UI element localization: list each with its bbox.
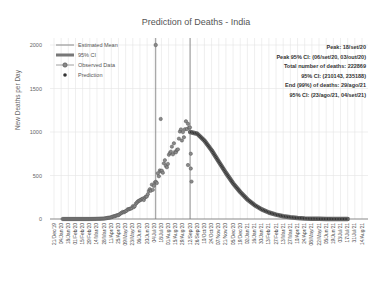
x-tick-label: 04/Jul/20: [152, 223, 157, 243]
x-tick-label: 29/Feb/20: [87, 223, 92, 245]
total-deaths-text: Total number of deaths: 222869: [276, 62, 366, 72]
x-tick-label: 24/Apr/21: [302, 223, 307, 244]
y-tick-label: 1500: [30, 86, 42, 92]
x-tick-label: 24/Oct/20: [209, 223, 214, 244]
x-tick-label: 19/Dec/20: [238, 223, 243, 245]
x-tick-label: 14/Mar/20: [94, 223, 99, 245]
x-tick-label: 14/Aug/21: [360, 223, 365, 245]
x-tick-label: 05/Dec/20: [231, 223, 236, 245]
x-tick-label: 29/Aug/20: [180, 223, 185, 245]
legend-label: Estimated Mean: [78, 42, 118, 48]
legend: Estimated Mean 95% CI Observed Data Pred…: [56, 40, 118, 80]
legend-item-observed: Observed Data: [56, 60, 118, 70]
x-tick-label: 18/Jan/20: [66, 223, 71, 244]
observed-data: [61, 117, 193, 220]
outlier-point: [154, 43, 158, 47]
legend-item-ci: 95% CI: [56, 50, 118, 60]
x-tick-label: 21/Nov/20: [223, 223, 228, 245]
x-tick-label: 30/Jan/21: [259, 223, 264, 244]
x-tick-label: 20/Jun/20: [145, 223, 150, 244]
end-ci-text: 95% CI: (23/ago/21, 04/set/21): [276, 91, 366, 101]
line-icon: [56, 42, 74, 48]
x-tick-label: 27/Feb/21: [274, 223, 279, 245]
legend-label: Observed Data: [78, 62, 115, 68]
x-tick-label: 22/May/21: [317, 223, 322, 246]
x-tick-label: 27/Mar/21: [288, 223, 293, 245]
x-tick-label: 08/May/21: [309, 223, 314, 246]
x-tick-label: 05/Jun/21: [324, 223, 329, 244]
legend-item-mean: Estimated Mean: [56, 40, 118, 50]
x-tick-label: 09/May/20: [123, 223, 128, 246]
x-tick-label: 01/Aug/20: [166, 223, 171, 245]
x-tick-label: 26/Sep/20: [195, 223, 200, 245]
x-tick-label: 03/Jul/21: [338, 223, 343, 243]
peak-ci-text: Peak 95% CI: (06/set/20, 03/out/20): [276, 53, 366, 63]
x-tick-label: 18/Jul/20: [159, 223, 164, 243]
x-tick-label: 10/Oct/20: [202, 223, 207, 244]
y-tick-label: 1000: [30, 129, 42, 135]
x-tick-label: 10/Apr/21: [295, 223, 300, 244]
x-tick-label: 19/Jun/21: [331, 223, 336, 244]
summary-annotations: Peak: 18/set/20 Peak 95% CI: (06/set/20,…: [276, 43, 366, 101]
x-tick-label: 28/Mar/20: [102, 223, 107, 245]
x-tick-label: 23/May/20: [130, 223, 135, 246]
x-tick-label: 07/Nov/20: [216, 223, 221, 245]
peak-text: Peak: 18/set/20: [276, 43, 366, 53]
x-tick-label: 16/Jan/21: [252, 223, 257, 244]
x-tick-label: 04/Jan/20: [59, 223, 64, 244]
x-tick-label: 15/Aug/20: [173, 223, 178, 245]
x-tick-label: 31/Jul/21: [352, 223, 357, 243]
y-tick-label: 0: [39, 216, 42, 222]
x-tick-label: 02/Jan/21: [245, 223, 250, 244]
marker-line-icon: [56, 62, 74, 68]
x-tick-label: 01/Feb/20: [73, 223, 78, 245]
x-tick-label: 12/Sep/20: [188, 223, 193, 245]
x-tick-label: 06/Jun/20: [137, 223, 142, 244]
x-tick-label: 21/Dec/19: [52, 223, 57, 245]
y-tick-label: 500: [33, 173, 42, 179]
legend-item-prediction: Prediction: [56, 70, 118, 80]
dot-icon: [56, 72, 74, 78]
x-tick-label: 11/Apr/20: [109, 223, 114, 244]
x-tick-label: 17/Jul/21: [345, 223, 350, 243]
end-text: End (99%) of deaths: 29/ago/21: [276, 81, 366, 91]
x-tick-label: 25/Apr/20: [116, 223, 121, 244]
x-tick-label: 13/Mar/21: [281, 223, 286, 245]
total-ci-text: 95% CI: (210143, 235188): [276, 72, 366, 82]
y-tick-label: 2000: [30, 42, 42, 48]
band-icon: [56, 52, 74, 58]
x-tick-label: 15/Feb/20: [80, 223, 85, 245]
x-tick-label: 13/Feb/21: [266, 223, 271, 245]
legend-label: 95% CI: [78, 52, 96, 58]
legend-label: Prediction: [78, 72, 102, 78]
